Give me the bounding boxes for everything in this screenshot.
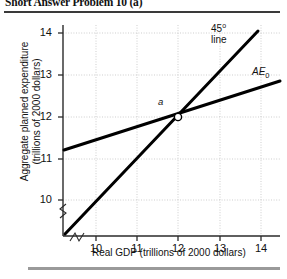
line-45-degree — [65, 31, 258, 234]
label-ae0-text: AE — [252, 66, 265, 77]
figure-page: Short Answer Problem 10 (a) — [0, 0, 287, 279]
equilibrium-point-marker — [174, 113, 181, 120]
line-ae0 — [64, 81, 280, 150]
y-tick-marks — [58, 33, 63, 200]
x-axis-title: Real GDP (trillions of 2000 dollars) — [92, 247, 246, 258]
y-axis-title-line1: Aggregate planned expenditure — [19, 27, 31, 197]
footer-divider — [28, 267, 280, 270]
label-45-degree-top: 45o — [211, 20, 227, 34]
y-axis-break-icon — [60, 204, 66, 218]
expenditure-chart: 14 13 12 11 10 10 11 12 13 14 Real GDP (… — [0, 0, 287, 279]
label-45-degree-bottom: line — [211, 34, 227, 45]
label-equilibrium-point: a — [158, 96, 163, 107]
label-ae0-subscript: 0 — [265, 71, 269, 80]
label-ae0-curve: AE0 — [252, 66, 270, 81]
x-tick-marks — [96, 236, 261, 241]
chart-canvas — [0, 0, 287, 279]
label-45-degree-line: 45o line — [211, 20, 227, 45]
degree-symbol-icon: o — [222, 22, 226, 29]
y-axis-title: Aggregate planned expenditure (trillions… — [19, 27, 42, 197]
x-tick-label-14: 14 — [250, 242, 272, 254]
y-axis-title-line2: (trillions of 2000 dollars) — [30, 27, 42, 197]
label-45-number: 45 — [211, 23, 222, 34]
x-axis-break-icon — [70, 233, 84, 241]
